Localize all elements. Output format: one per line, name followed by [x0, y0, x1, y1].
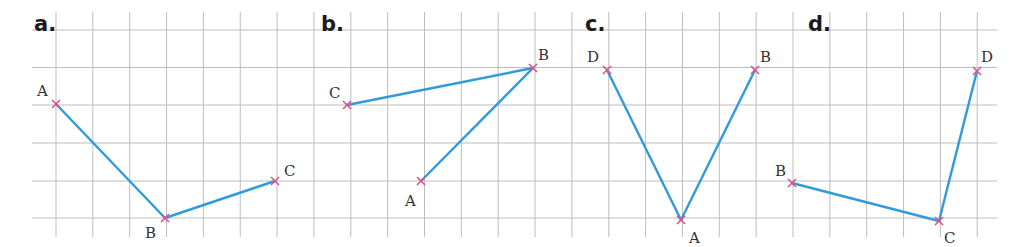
segment-AB [56, 104, 165, 218]
segment-AB [681, 70, 755, 220]
point-label: C [284, 162, 295, 180]
point-marker-icon [677, 216, 685, 224]
segment-BA [421, 68, 533, 181]
point-label: A [688, 229, 700, 247]
segment-CB [347, 68, 533, 105]
panel-c: c.DAB [585, 12, 771, 247]
panels: a.ABCb.CBAc.DABd.BCD [34, 12, 993, 247]
panel-label: a. [34, 12, 56, 36]
segment-BC [165, 181, 275, 218]
point-label: A [36, 82, 48, 100]
point-label: B [538, 46, 549, 64]
panel-b: b.CBA [321, 12, 549, 210]
grid-diagram: a.ABCb.CBAc.DABd.BCD [0, 0, 1028, 247]
panel-label: b. [321, 12, 344, 36]
point-label: D [981, 48, 993, 66]
segment-DA [607, 70, 681, 220]
panel-label: c. [585, 12, 605, 36]
point-label: A [404, 192, 416, 210]
segment-CD [939, 71, 977, 221]
point-label: B [775, 162, 786, 180]
point-label: B [145, 224, 156, 242]
point-label: D [587, 48, 599, 66]
panel-d: d.BCD [775, 12, 993, 247]
grid-lines [32, 12, 997, 237]
panel-label: d. [808, 12, 831, 36]
point-label: B [760, 48, 771, 66]
point-label: C [944, 229, 955, 247]
panel-a: a.ABC [34, 12, 295, 242]
point-label: C [329, 84, 340, 102]
segment-BC [792, 183, 939, 221]
